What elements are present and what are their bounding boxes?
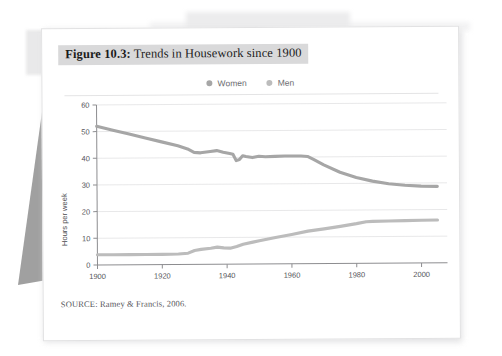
y-axis-title: Hours per week <box>60 193 69 246</box>
legend-item-men: Men <box>267 78 295 88</box>
gridline-horizontal <box>97 209 447 211</box>
chart-legend: Women Men <box>42 77 458 90</box>
y-axis-tick-label: 40 <box>81 154 89 163</box>
y-axis-tick-label: 30 <box>82 181 90 190</box>
legend-label-men: Men <box>278 78 295 88</box>
figure-title: Figure 10.3: Trends in Housework since 1… <box>58 44 308 66</box>
y-axis-tick-label: 50 <box>81 127 89 136</box>
y-axis-tick-label: 0 <box>86 261 90 270</box>
x-axis-tick-label: 2000 <box>413 270 430 279</box>
y-axis-tick-label: 60 <box>81 101 89 110</box>
figure-number: Figure 10.3: <box>65 47 131 61</box>
gridline-horizontal <box>97 129 447 131</box>
source-note: SOURCE: Ramey & Francis, 2006. <box>61 298 187 309</box>
circle-marker-icon <box>267 80 273 86</box>
y-axis-tick-label: 20 <box>82 207 90 216</box>
x-axis-tick-label: 1980 <box>348 270 365 279</box>
gridline-horizontal <box>97 103 447 105</box>
legend-item-women: Women <box>207 78 247 88</box>
figure-card: Figure 10.3: Trends in Housework since 1… <box>41 26 461 342</box>
x-axis-tick-label: 1920 <box>154 271 171 280</box>
line-chart: Hours per week 0102030405060190019201940… <box>50 95 451 297</box>
circle-marker-icon <box>207 80 213 86</box>
chart-svg: 0102030405060190019201940196019802000 <box>50 95 451 297</box>
x-axis-line <box>97 263 447 265</box>
x-axis-tick-label: 1900 <box>89 272 106 281</box>
figure-title-text: Trends in Housework since 1900 <box>131 46 302 61</box>
x-axis-tick-label: 1940 <box>219 271 236 280</box>
y-axis-tick-label: 10 <box>82 234 90 243</box>
x-axis-tick-label: 1960 <box>284 271 301 280</box>
legend-label-women: Women <box>218 78 247 88</box>
